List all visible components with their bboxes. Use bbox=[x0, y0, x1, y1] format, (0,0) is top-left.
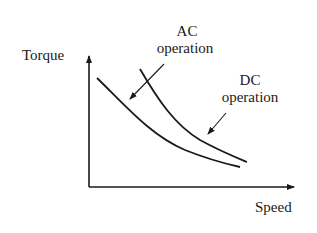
dc-label-line2: operation bbox=[222, 89, 279, 105]
y-axis-label: Torque bbox=[22, 47, 65, 63]
dc-pointer-arrow bbox=[208, 113, 226, 134]
ac-label-line1: AC bbox=[177, 23, 198, 39]
dc-operation-curve bbox=[140, 69, 247, 162]
ac-pointer-arrow bbox=[130, 64, 164, 99]
ac-label-line2: operation bbox=[157, 40, 214, 56]
dc-label-line1: DC bbox=[240, 72, 261, 88]
torque-speed-diagram: Torque Speed AC operation DC operation bbox=[0, 0, 317, 233]
x-axis-label: Speed bbox=[255, 199, 292, 215]
